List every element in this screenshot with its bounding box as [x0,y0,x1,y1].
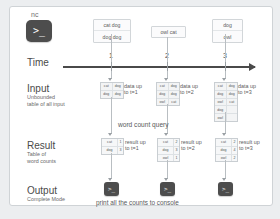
table-cell: dog [227,83,238,90]
table-cell-count: 3 [118,147,123,154]
nc-source-label: nc [31,11,39,18]
result-caption-line-1: result up [181,139,202,145]
result-subtitle-2: word counts [27,158,56,165]
table-row: dog dog [157,91,179,99]
table-cell: dog [169,83,180,90]
input-caption-line-1: data up [180,83,198,89]
table-cell: dog [215,91,227,98]
connector-line [225,160,226,179]
result-caption: result up to t=2 [181,139,202,152]
input-caption-line-1: data up [124,83,142,89]
table-cell-word: dog [158,147,174,154]
result-caption-line-2: to t=1 [125,145,139,151]
time-tick [167,62,168,71]
terminal-prompt-glyph: >_ [222,186,229,192]
message-box: owl cat [151,26,186,38]
time-axis [63,66,255,68]
input-row-label: Input Unbounded table of all input [27,83,65,107]
table-row: dog 3 [158,147,179,155]
input-caption-line-2: to t=1 [124,89,138,95]
table-row: owl cat [215,99,237,107]
table-cell-count: 2 [232,139,237,146]
time-tick [225,62,226,71]
table-cell [227,114,238,121]
input-caption: data up to t=2 [180,83,198,96]
result-table: cat 2 dog 4 owl 2 [215,138,238,162]
table-row: owl 1 [158,155,179,162]
input-table: cat dog dog dog owl cat dog owl [214,82,238,122]
table-cell: dog [169,91,180,98]
result-caption: result up to t=1 [125,139,146,152]
table-cell: cat [169,99,180,106]
axis-arrow-icon [249,63,256,71]
input-table: cat dog dog dog owl cat [156,82,180,106]
connector-arrow-icon [222,178,226,181]
connector-arrow-icon [222,133,226,136]
input-table: cat dog dog dog [100,82,124,99]
input-title: Input [27,83,65,94]
result-table: cat 1 dog 3 [101,138,124,155]
connector-line [111,153,112,179]
message-line: cat dog [94,20,130,31]
input-caption-line-2: to t=2 [180,89,194,95]
time-row-label: Time [27,57,49,68]
connector-line [167,37,168,62]
result-caption: result up to t=3 [239,139,260,152]
table-cell-count: 3 [174,147,179,154]
output-subtitle-1: Complete Mode [27,196,65,203]
table-cell-word: dog [216,147,232,154]
console-output-label: print all the counts to console [96,199,179,206]
table-row: dog dog [215,91,237,99]
table-row: cat dog [215,83,237,91]
diagram-canvas: nc >_ cat dog dog dog owl cat dog owl Ti… [0,0,280,219]
table-cell-count: 2 [174,139,179,146]
table-cell-count: 1 [174,155,179,162]
input-caption: data up to t=3 [238,83,256,96]
table-row: owl [215,114,237,121]
connector-arrow-icon [164,133,168,136]
message-box: dog owl [212,19,243,43]
connector-line [111,34,112,62]
input-subtitle-1: Unbounded [27,94,65,101]
table-cell-word: cat [216,139,232,146]
terminal-icon: >_ [160,182,175,196]
connector-line [111,97,112,134]
output-row-label: Output Complete Mode [27,185,65,203]
terminal-icon: >_ [104,182,119,196]
connector-arrow-icon [164,78,168,81]
table-cell-count: 2 [232,155,237,162]
connector-arrow-icon [108,133,112,136]
connector-arrow-icon [222,78,226,81]
table-row: cat dog [157,83,179,91]
message-box: cat dog dog dog [93,19,131,43]
terminal-icon: >_ [218,182,233,196]
table-cell: dog [113,91,124,98]
table-row: owl 2 [216,155,237,162]
table-row: dog 4 [216,147,237,155]
table-cell-word: dog [102,147,118,154]
table-cell-word: owl [216,155,232,162]
connector-line [167,160,168,179]
connector-arrow-icon [164,178,168,181]
result-caption-line-2: to t=3 [239,145,253,151]
table-cell: cat [215,83,227,90]
table-row: dog 3 [102,147,123,154]
terminal-icon: >_ [26,20,52,42]
input-subtitle-2: table of all input [27,101,65,108]
input-caption-line-2: to t=3 [238,89,252,95]
input-caption-line-1: data up [238,83,256,89]
time-label-text: Time [27,57,49,68]
table-cell-word: cat [158,139,174,146]
table-cell: dog [227,91,238,98]
table-row: cat 2 [158,139,179,147]
result-caption-line-2: to t=2 [181,145,195,151]
table-cell-count: 4 [232,147,237,154]
connector-line [225,34,226,62]
table-cell: cat [157,83,169,90]
terminal-prompt-glyph: >_ [164,186,171,192]
table-row: dog dog [101,91,123,98]
table-row: owl cat [157,99,179,106]
query-label: word count query [118,121,169,128]
result-subtitle-1: Table of [27,151,56,158]
table-cell: cat [227,99,238,106]
